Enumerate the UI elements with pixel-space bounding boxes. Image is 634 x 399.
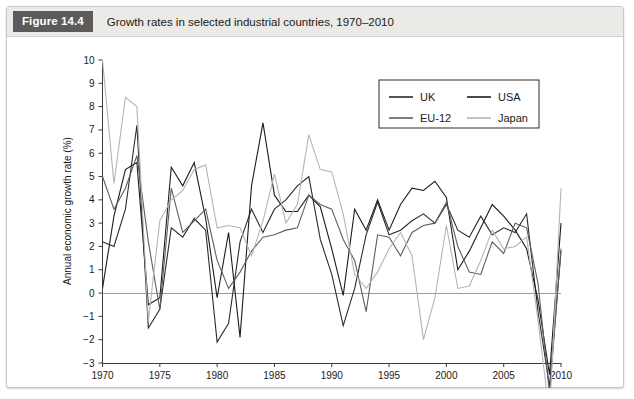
y-tick-label: 5: [89, 171, 95, 182]
x-tick-label: 1970: [91, 370, 114, 381]
y-axis-ticks: 109876543210−1−2−3: [83, 55, 102, 369]
series-line-usa: [103, 123, 562, 375]
y-tick-label: 8: [89, 101, 95, 112]
figure-title: Growth rates in selected industrial coun…: [107, 16, 394, 28]
y-tick-label: −2: [83, 334, 95, 345]
growth-rates-line-chart: 109876543210−1−2−3 197019751980198519901…: [7, 38, 625, 388]
y-tick-label: 2: [89, 241, 95, 252]
x-tick-label: 1990: [321, 370, 344, 381]
y-axis-title: Annual economic growth rate (%): [62, 137, 73, 285]
x-tick-label: 1975: [149, 370, 172, 381]
x-tick-label: 2000: [435, 370, 458, 381]
legend-label-japan: Japan: [498, 112, 528, 124]
y-tick-label: 6: [89, 148, 95, 159]
legend-label-uk: UK: [420, 91, 436, 103]
chart-plot-area: 109876543210−1−2−3 197019751980198519901…: [7, 38, 625, 388]
x-tick-label: 2010: [550, 370, 573, 381]
y-tick-label: 0: [89, 288, 95, 299]
y-tick-label: 10: [83, 55, 95, 66]
y-tick-label: 3: [89, 218, 95, 229]
y-tick-label: 1: [89, 264, 95, 275]
figure-number-badge: Figure 14.4: [13, 11, 93, 33]
y-tick-label: 4: [89, 194, 95, 205]
x-tick-label: 2005: [493, 370, 516, 381]
y-tick-label: 9: [89, 78, 95, 89]
figure-card: Figure 14.4 Growth rates in selected ind…: [6, 6, 624, 388]
y-tick-label: −3: [83, 358, 95, 369]
figure-caption-bar: Figure 14.4 Growth rates in selected ind…: [7, 7, 623, 37]
x-tick-label: 1985: [263, 370, 286, 381]
y-tick-label: −1: [83, 311, 95, 322]
legend-label-eu-12: EU-12: [420, 112, 451, 124]
x-axis-ticks: 197019751980198519901995200020052010: [91, 363, 572, 381]
chart-legend: UKUSAEU-12Japan: [379, 80, 539, 128]
series-line-eu-12: [103, 156, 562, 388]
y-tick-label: 7: [89, 124, 95, 135]
series-line-uk: [103, 125, 562, 386]
legend-label-usa: USA: [498, 91, 521, 103]
x-tick-label: 1980: [206, 370, 229, 381]
x-tick-label: 1995: [378, 370, 401, 381]
